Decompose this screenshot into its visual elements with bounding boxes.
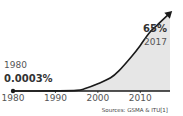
start-value-label: 0.0003% (4, 73, 53, 84)
end-value-label: 65% (143, 23, 167, 34)
x-tick-label: 1980 (2, 93, 25, 103)
x-tick-label: 1990 (44, 93, 67, 103)
start-year-label: 1980 (4, 60, 27, 70)
source-note: Sources: GSMA & ITU[1] (102, 107, 168, 113)
x-tick-label: 2000 (86, 93, 109, 103)
x-tick-label: 2010 (129, 93, 152, 103)
end-year-label: 2017 (144, 37, 167, 47)
chart: 1980199020002010 1980 0.0003% 65% 2017 S… (0, 0, 183, 116)
